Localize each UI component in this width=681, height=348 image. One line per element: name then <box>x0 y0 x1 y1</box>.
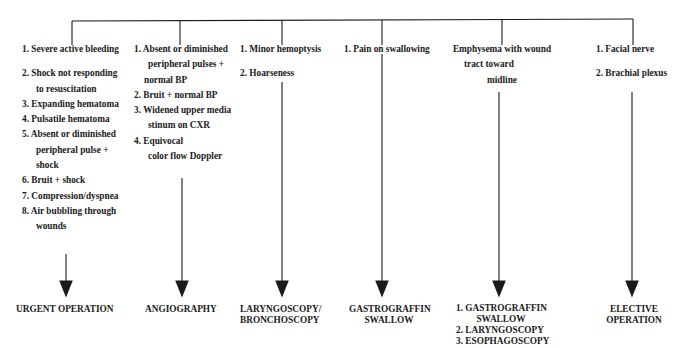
criteria-gastrograffin: 1. Pain on swallowing <box>344 42 430 57</box>
criterion: 3. Expanding hematoma <box>22 97 119 112</box>
criterion: 1. Pain on swallowing <box>344 42 430 57</box>
criterion: 4. Equivocal <box>134 134 231 149</box>
outcome-label: ANGIOGRAPHY <box>145 304 217 315</box>
criterion-continuation: normal BP <box>134 73 231 88</box>
outcome-label: URGENT OPERATION <box>16 304 114 315</box>
outcome-label: 3. ESOPHAGOSCOPY <box>456 336 546 347</box>
arrow-head-icon <box>276 281 288 296</box>
outcome-label: BRONCHOSCOPY <box>240 315 324 326</box>
outcome-laryngoscopy: LARYNGOSCOPY/ BRONCHOSCOPY <box>240 304 324 326</box>
criterion-continuation: peripheral pulses + <box>134 57 231 72</box>
outcome-label: 1. GASTROGRAFFIN <box>456 303 546 314</box>
criterion: 7. Compression/dyspnea <box>22 189 119 204</box>
criterion: 1. Facial nerve <box>596 42 667 57</box>
arrow-head-icon <box>376 281 388 296</box>
criterion: 2. Hoarseness <box>240 66 321 81</box>
criteria-urgent: 1. Severe active bleeding 2. Shock not r… <box>22 42 119 235</box>
criterion: 3. Widened upper media <box>134 103 231 118</box>
criterion: 1. Severe active bleeding <box>22 42 119 57</box>
outcome-elective: ELECTIVE OPERATION <box>604 304 664 326</box>
criterion: 1. Minor hemoptysis <box>240 42 321 57</box>
criterion-continuation: shock <box>22 158 119 173</box>
criterion: 5. Absent or diminished <box>22 127 119 142</box>
criteria-laryngoscopy: 1. Minor hemoptysis 2. Hoarseness <box>240 42 321 82</box>
outcome-gastrograffin: GASTROGRAFFIN SWALLOW <box>349 304 429 326</box>
top-bus-line <box>72 19 633 21</box>
criterion-continuation: peripheral pulse + <box>22 143 119 158</box>
criteria-elective: 1. Facial nerve 2. Brachial plexus <box>596 42 667 82</box>
outcome-label: ELECTIVE <box>604 304 664 315</box>
criteria-angiography: 1. Absent or diminished peripheral pulse… <box>134 42 231 164</box>
criterion-continuation: tract toward <box>452 57 552 72</box>
criterion-continuation: to resuscitation <box>22 82 119 97</box>
arrow-head-icon <box>626 281 638 296</box>
outcome-label: OPERATION <box>604 315 664 326</box>
criterion: 1. Absent or diminished <box>134 42 231 57</box>
outcome-label: SWALLOW <box>349 315 429 326</box>
criterion: 2. Bruit + normal BP <box>134 88 231 103</box>
criterion-continuation: color flow Doppler <box>134 149 231 164</box>
outcome-label: LARYNGOSCOPY/ <box>240 304 324 315</box>
criterion-continuation: midline <box>452 73 552 88</box>
outcome-urgent-operation: URGENT OPERATION <box>16 304 114 315</box>
outcome-label: 2. LARYNGOSCOPY <box>456 325 546 336</box>
arrow-head-icon <box>176 281 188 296</box>
arrow-head-icon <box>493 281 505 296</box>
criterion-continuation: wounds <box>22 219 119 234</box>
criterion: 6. Bruit + shock <box>22 173 119 188</box>
criterion: 8. Air bubbling through <box>22 204 119 219</box>
criterion: Emphysema with wound <box>452 42 552 57</box>
outcome-label: GASTROGRAFFIN <box>349 304 429 315</box>
criterion-continuation: stinum on CXR <box>134 118 231 133</box>
outcome-label: SWALLOW <box>456 314 546 325</box>
outcome-emphysema: 1. GASTROGRAFFIN SWALLOW 2. LARYNGOSCOPY… <box>456 303 546 347</box>
criterion: 2. Shock not responding <box>22 66 119 81</box>
criterion: 4. Pulsatile hematoma <box>22 112 119 127</box>
arrow-head-icon <box>60 281 72 296</box>
outcome-angiography: ANGIOGRAPHY <box>145 304 217 315</box>
criteria-emphysema: Emphysema with wound tract toward midlin… <box>452 42 552 88</box>
criterion: 2. Brachial plexus <box>596 66 667 81</box>
